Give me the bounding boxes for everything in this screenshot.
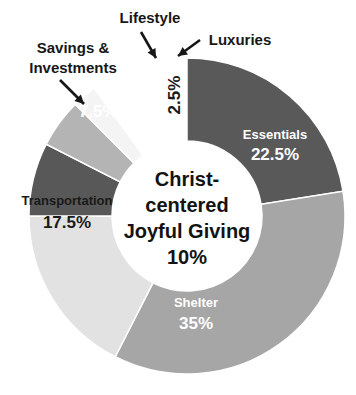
callout-label-savings-investments-line-1: Savings & [37, 39, 110, 56]
slice-name-essentials: Essentials [243, 127, 307, 142]
center-label-line-1: Christ- [155, 168, 219, 190]
slice-value-transportation: 17.5% [43, 213, 91, 232]
donut-center-hole [112, 141, 262, 291]
center-label-line-2: centered [145, 194, 228, 216]
center-label-value: 10% [167, 246, 207, 268]
slice-value-lifestyle: 5% [126, 76, 151, 95]
donut-chart-svg: Essentials22.5%Shelter35%Transportation1… [0, 0, 356, 395]
slice-value-essentials: 22.5% [251, 145, 299, 164]
slice-value-shelter: 35% [179, 314, 213, 333]
slice-name-shelter: Shelter [174, 295, 218, 310]
slice-value-luxuries: 2.5% [165, 76, 184, 115]
slice-value-savings-investments: 7.5% [79, 102, 118, 121]
callout-label-savings-investments-line-2: Investments [29, 59, 117, 76]
slice-name-transportation: Transportation [21, 193, 112, 208]
callout-label-lifestyle: Lifestyle [120, 9, 181, 26]
callout-label-luxuries: Luxuries [209, 31, 272, 48]
donut-chart-figure: Essentials22.5%Shelter35%Transportation1… [0, 0, 356, 395]
center-label-line-3: Joyful Giving [124, 220, 251, 242]
